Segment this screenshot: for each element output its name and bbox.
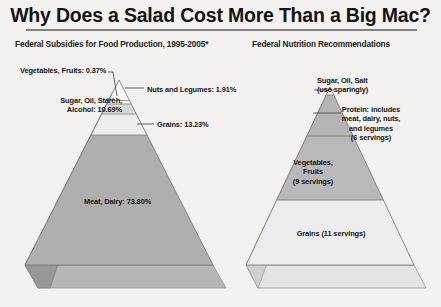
label-protein-line-1: Protein: includes [315, 105, 427, 114]
label-sugar-line-1: Sugar, Oil, Starch, [26, 96, 122, 105]
label-right-sugar-line-1: Sugar, Oil, Salt [317, 76, 427, 85]
label-right-veg-line-1: Vegetables, [272, 158, 354, 167]
label-right-veg-line-2: Fruits [272, 167, 354, 176]
label-right-sugar-line-2: (use sparingly) [317, 85, 427, 94]
label-grains: Grains: 13.23% [157, 120, 209, 129]
label-protein-line-4: (6 servings) [315, 133, 427, 142]
label-right-protein: Protein: includes meat, dairy, nuts, and… [315, 105, 427, 143]
right-pyramid-base-face [246, 265, 426, 288]
label-nuts-legumes: Nuts and Legumes: 1.91% [147, 85, 236, 94]
label-protein-line-3: and legumes [315, 124, 427, 133]
label-sugar-line-2: Alcohol: 10.69% [26, 105, 122, 114]
label-meat-dairy: Meat, Dairy: 73.80% [84, 197, 151, 206]
label-right-grains: Grains (11 servings) [276, 229, 386, 238]
label-protein-line-2: meat, dairy, nuts, [315, 114, 427, 123]
pyramids-artwork [0, 0, 441, 307]
label-right-sugar-oil-salt: Sugar, Oil, Salt (use sparingly) [317, 76, 427, 95]
infographic-canvas: Why Does a Salad Cost More Than a Big Ma… [0, 0, 441, 307]
label-sugar-oil-starch-alcohol: Sugar, Oil, Starch, Alcohol: 10.69% [26, 96, 122, 115]
label-vegetables-fruits: Vegetables, Fruits: 0.37% [20, 66, 106, 75]
label-right-veg-line-3: (9 servings) [272, 177, 354, 186]
label-right-vegetables-fruits: Vegetables, Fruits (9 servings) [272, 158, 354, 186]
